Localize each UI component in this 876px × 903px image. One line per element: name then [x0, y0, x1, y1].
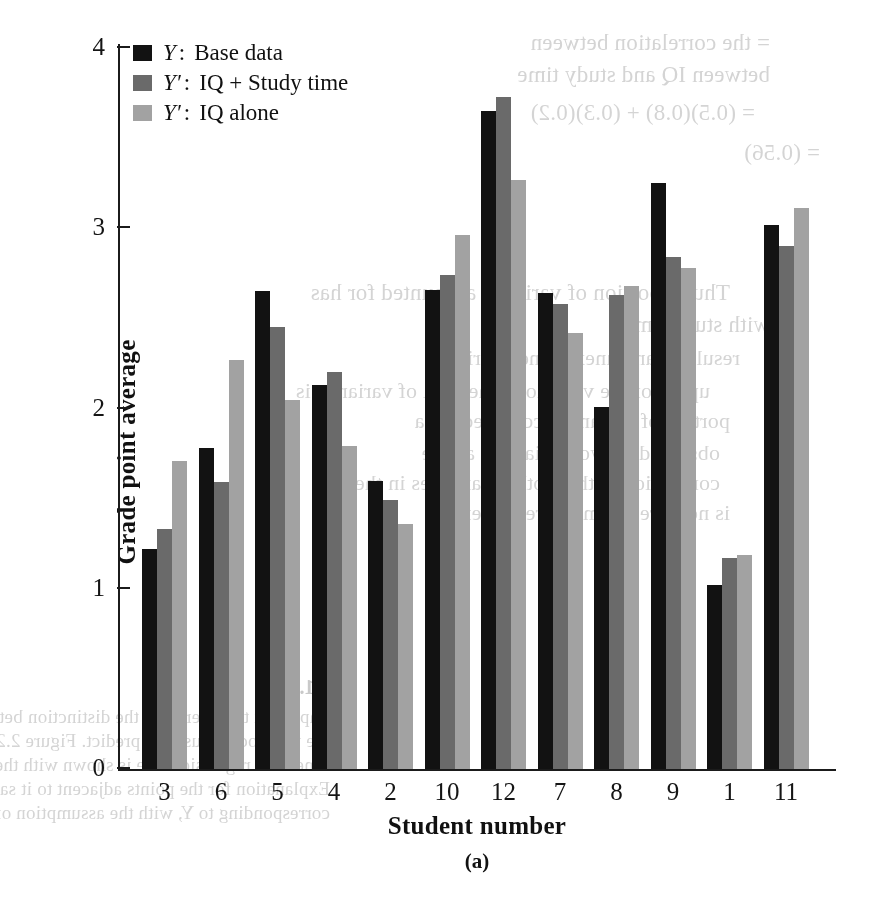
bar	[383, 500, 398, 769]
bar	[779, 246, 794, 769]
x-tick-label: 8	[594, 778, 639, 806]
bar	[270, 327, 285, 769]
x-tick-label: 7	[538, 778, 583, 806]
legend-item: Y′:IQ alone	[133, 98, 348, 128]
bar	[285, 400, 300, 770]
bar-group: 5	[255, 44, 300, 769]
x-tick-label: 2	[368, 778, 413, 806]
bar	[342, 446, 357, 769]
y-tick-label: 1	[93, 574, 106, 599]
bar-group: 10	[425, 44, 470, 769]
bar	[794, 208, 809, 769]
bar-group: 12	[481, 44, 526, 769]
bar	[707, 585, 722, 769]
x-tick-label: 12	[481, 778, 526, 806]
bar	[681, 268, 696, 769]
bar	[594, 407, 609, 769]
bar-group: 2	[368, 44, 413, 769]
bar-group: 6	[199, 44, 244, 769]
bar	[651, 183, 666, 769]
legend-swatch	[133, 75, 152, 91]
legend-label: Base data	[194, 40, 283, 66]
legend-colon: :	[184, 100, 190, 126]
bar	[481, 111, 496, 769]
bar	[214, 482, 229, 769]
x-axis-line	[118, 769, 836, 771]
bar	[142, 549, 157, 769]
x-tick-label: 11	[764, 778, 809, 806]
bar	[722, 558, 737, 769]
x-tick-label: 1	[707, 778, 752, 806]
legend-item: Y′:IQ + Study time	[133, 68, 348, 98]
bar	[609, 295, 624, 769]
bar-group: 11	[764, 44, 809, 769]
legend-swatch	[133, 45, 152, 61]
bar	[157, 529, 172, 769]
bar-group: 1	[707, 44, 752, 769]
bar-group: 7	[538, 44, 583, 769]
legend-colon: :	[184, 70, 190, 96]
legend-colon: :	[179, 40, 185, 66]
bar	[327, 372, 342, 769]
legend-series-symbol: Y	[163, 40, 176, 66]
bar	[538, 293, 553, 769]
legend-series-symbol: Y′	[163, 100, 181, 126]
legend-item: Y:Base data	[133, 38, 348, 68]
legend-label: IQ + Study time	[199, 70, 348, 96]
y-tick-label: 4	[93, 34, 106, 59]
bar	[425, 290, 440, 769]
bar	[255, 291, 270, 769]
plot-area: 01234 365421012789111	[118, 44, 836, 771]
x-tick-label: 10	[425, 778, 470, 806]
bar-group: 9	[651, 44, 696, 769]
y-tick-label: 3	[93, 214, 106, 239]
legend-swatch	[133, 105, 152, 121]
chart-legend: Y:Base dataY′:IQ + Study timeY′:IQ alone	[133, 38, 348, 128]
bar	[398, 524, 413, 769]
bar-groups: 365421012789111	[118, 44, 836, 769]
x-tick-label: 9	[651, 778, 696, 806]
bar	[440, 275, 455, 769]
bar	[568, 333, 583, 769]
y-tick-label: 0	[93, 755, 106, 780]
legend-label: IQ alone	[199, 100, 279, 126]
bar	[368, 481, 383, 769]
legend-series-symbol: Y′	[163, 70, 181, 96]
x-tick-label: 3	[142, 778, 187, 806]
bar	[229, 360, 244, 769]
bar	[624, 286, 639, 769]
bar-group: 3	[142, 44, 187, 769]
bar	[511, 180, 526, 769]
bar-group: 8	[594, 44, 639, 769]
bar-group: 4	[312, 44, 357, 769]
bar	[312, 385, 327, 769]
bar	[496, 97, 511, 769]
bar	[172, 461, 187, 769]
x-tick-label: 6	[199, 778, 244, 806]
panel-caption: (a)	[118, 849, 836, 874]
y-tick-label: 2	[93, 394, 106, 419]
bar	[455, 235, 470, 769]
bar	[764, 225, 779, 769]
bar	[737, 555, 752, 769]
x-axis-title: Student number	[118, 812, 836, 840]
x-tick-label: 5	[255, 778, 300, 806]
bar	[666, 257, 681, 769]
bar	[199, 448, 214, 769]
bar	[553, 304, 568, 769]
x-tick-label: 4	[312, 778, 357, 806]
figure-panel-a: Grade point average 01234 36542101278911…	[0, 0, 876, 903]
